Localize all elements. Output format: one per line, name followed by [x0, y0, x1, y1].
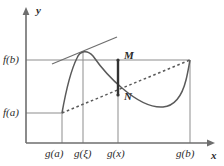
y-axis-arrow — [23, 7, 30, 15]
y-tick-label-fa: f(a) — [3, 107, 19, 118]
x-axis-arrow — [207, 140, 215, 147]
x-tick-label-gxi: g(ξ) — [74, 148, 92, 159]
x-axis-label: x — [211, 150, 217, 161]
y-tick-label-fb: f(b) — [3, 54, 19, 65]
x-tick-label-gx: g(x) — [107, 148, 125, 159]
x-tick-label-ga: g(a) — [45, 148, 63, 159]
y-axis-label: y — [36, 5, 41, 16]
x-tick-label-gb: g(b) — [176, 148, 194, 159]
math-figure: y x f(b) f(a) g(a) g(ξ) g(x) g(b) M N — [0, 0, 224, 166]
point-label-n: N — [124, 91, 132, 102]
point-m-marker — [116, 58, 119, 61]
point-label-m: M — [124, 50, 134, 61]
figure-canvas — [0, 0, 224, 166]
guide-lines — [26, 51, 190, 143]
point-n-marker — [116, 93, 119, 96]
